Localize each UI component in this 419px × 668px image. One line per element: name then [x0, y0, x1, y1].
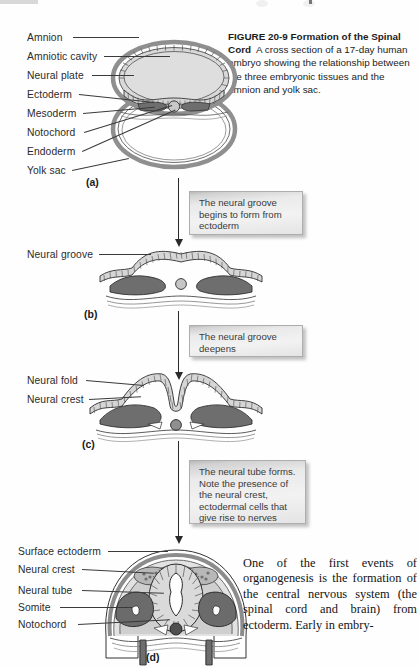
panel-d-label-neural-crest: Neural crest	[18, 564, 75, 575]
panel-a-label-ectoderm: Ectoderm	[27, 89, 72, 100]
panel-c-illustration	[86, 368, 266, 440]
panel-b-illustration	[96, 246, 266, 308]
panel-a-label-neural-plate: Neural plate	[27, 70, 84, 81]
panel-a-label-yolk-sac: Yolk sac	[27, 165, 66, 176]
callout-box-1: The neural groove begins to form from ec…	[189, 191, 303, 235]
panel-a-label-amniotic-cavity: Amniotic cavity	[27, 51, 97, 62]
panel-a-illustration	[108, 32, 240, 172]
scan-artifact-tick	[309, 0, 312, 4]
leader-line-surface-ectoderm	[108, 551, 168, 552]
panel-a-label-notochord: Notochord	[27, 127, 75, 138]
scan-artifact-dot-1	[256, 0, 268, 7]
figure-caption-body: A cross section of a 17-day human embryo…	[228, 44, 410, 95]
callout-box-2: The neural groove deepens	[189, 325, 303, 357]
leader-line-neural-plate	[92, 75, 134, 76]
panel-b-letter: (b)	[84, 308, 97, 320]
panel-d-illustration	[96, 540, 256, 665]
leader-line-neural-groove	[99, 254, 151, 255]
flow-arrow-c-to-d	[178, 441, 179, 537]
panel-c-label-neural-crest: Neural crest	[27, 394, 84, 405]
figure-caption: FIGURE 20-9 Formation of the Spinal Cord…	[228, 30, 416, 96]
flow-arrow-b-to-c	[178, 311, 179, 373]
panel-c-label-neural-fold: Neural fold	[27, 375, 78, 386]
panel-d-label-neural-tube: Neural tube	[18, 585, 72, 596]
body-paragraph: One of the first events of organogenesis…	[243, 556, 417, 668]
panel-d-label-surface-ectoderm: Surface ectoderm	[18, 546, 101, 557]
panel-a-label-mesoderm: Mesoderm	[27, 108, 76, 119]
leader-line-somite	[60, 607, 132, 608]
callout-box-3: The neural tube forms. Note the presence…	[189, 460, 306, 524]
leader-line-amniotic-cavity	[104, 56, 170, 57]
panel-a-letter: (a)	[86, 176, 99, 188]
panel-a-label-amnion: Amnion	[27, 32, 63, 43]
panel-d-letter: (d)	[146, 651, 159, 663]
panel-d-label-notochord-d: Notochord	[18, 619, 66, 630]
panel-c-letter: (c)	[82, 438, 95, 450]
leader-line-amnion	[73, 37, 139, 38]
panel-b-label-neural-groove: Neural groove	[27, 249, 93, 260]
panel-a-label-endoderm: Endoderm	[27, 146, 75, 157]
panel-d-label-somite: Somite	[18, 602, 51, 613]
flow-arrow-a-to-b	[178, 178, 179, 240]
scan-artifact-top-left	[0, 0, 38, 4]
body-paragraph-text: One of the first events of organogenesis…	[243, 556, 417, 632]
